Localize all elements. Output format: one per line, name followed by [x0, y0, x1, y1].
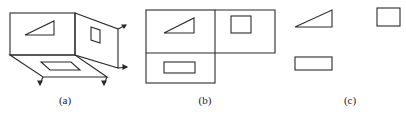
b-square	[231, 16, 251, 33]
panel-a-drawing	[10, 13, 127, 85]
c-triangle	[295, 10, 332, 27]
caption-b: (b)	[199, 94, 212, 106]
side-rectangle	[91, 27, 100, 43]
left-planes	[146, 10, 215, 83]
caption-c: (c)	[344, 94, 356, 106]
front-triangle	[25, 21, 54, 35]
floor-rectangle	[41, 62, 80, 70]
front-plane	[10, 13, 75, 55]
panel-c-drawing	[295, 8, 400, 70]
panel-b-drawing	[146, 10, 275, 83]
b-triangle	[164, 18, 194, 33]
b-rectangle	[164, 62, 195, 73]
caption-a: (a)	[59, 94, 71, 106]
c-rectangle	[295, 57, 332, 70]
c-square	[377, 8, 400, 26]
floor-plane	[10, 55, 107, 77]
